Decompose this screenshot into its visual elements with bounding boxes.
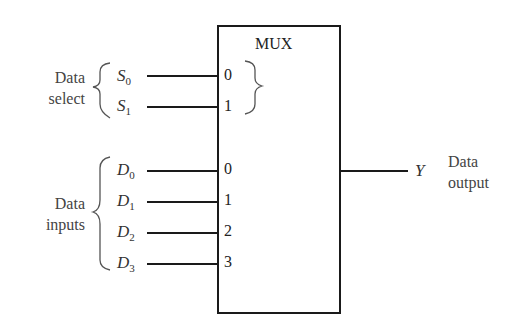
inputs-left-brace-icon (93, 157, 110, 270)
select-right-brace-icon (245, 61, 262, 114)
select-left-brace-icon (93, 63, 110, 118)
braces (0, 0, 530, 328)
